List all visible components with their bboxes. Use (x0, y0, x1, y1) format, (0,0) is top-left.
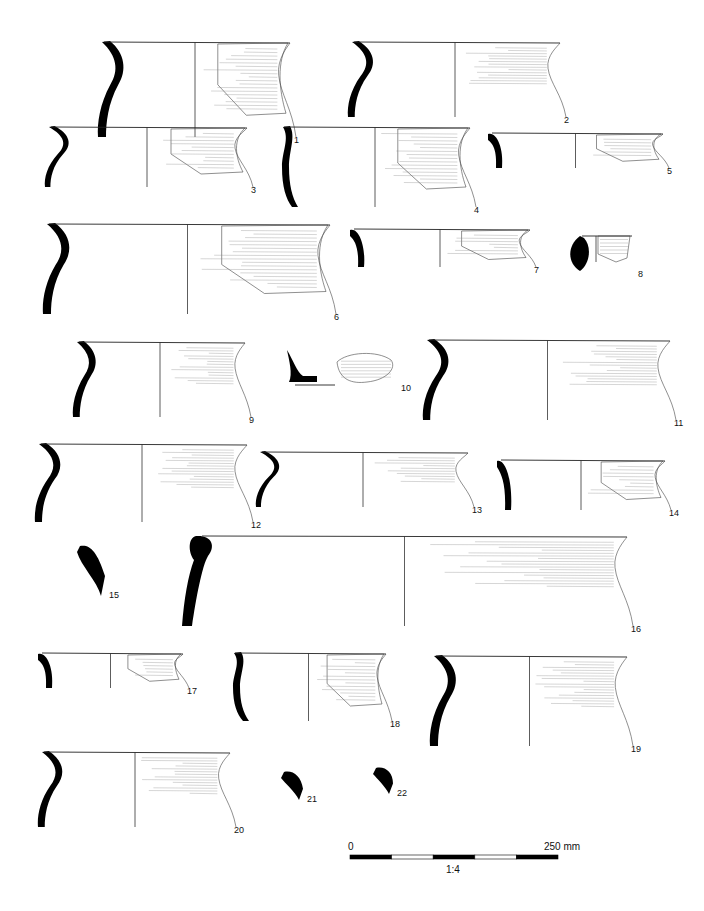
vessel-17: 17 (38, 653, 197, 696)
exterior-outline (235, 445, 253, 522)
vessel-1: 1 (98, 41, 299, 145)
section-profile (256, 451, 279, 507)
vessel-4: 4 (282, 126, 479, 215)
exterior-outline (456, 453, 474, 507)
section-profile (348, 41, 373, 117)
scale-start-label: 0 (348, 841, 354, 852)
vessel-number: 4 (474, 205, 479, 215)
vessel-22: 22 (373, 768, 407, 798)
section-profile (233, 652, 249, 721)
section-profile (38, 654, 52, 688)
rim-line (104, 42, 290, 43)
vessel-number: 6 (334, 312, 339, 322)
fragment-outline (598, 236, 630, 262)
rim-line (202, 536, 627, 537)
vessel-number: 2 (564, 115, 569, 125)
vessel-9: 9 (73, 341, 254, 425)
rim-line (235, 653, 386, 654)
vessel-number: 14 (669, 508, 679, 518)
vessel-21: 21 (281, 772, 317, 804)
vessel-18: 18 (233, 652, 400, 729)
exterior-outline (218, 753, 236, 827)
vessel-number: 9 (249, 415, 254, 425)
fragment-outline (218, 43, 288, 115)
section-profile (287, 350, 317, 382)
vessel-number: 3 (251, 185, 256, 195)
rim-line (79, 342, 245, 343)
vessel-number: 15 (109, 590, 119, 600)
vessel-2: 2 (348, 41, 569, 125)
vessel-number: 22 (397, 788, 407, 798)
fragment-outline (462, 230, 528, 260)
section-profile (373, 768, 393, 794)
vessel-number: 7 (534, 265, 539, 275)
section-profile (98, 41, 124, 137)
vessel-number: 20 (234, 825, 244, 835)
exterior-outline (548, 43, 566, 117)
vessel-number: 18 (390, 719, 400, 729)
vessel-14: 14 (497, 460, 679, 518)
rim-line (41, 444, 247, 445)
vessel-number: 10 (401, 383, 411, 393)
vessel-20: 20 (38, 751, 244, 835)
vessel-number: 17 (187, 686, 197, 696)
scale-bar: 0250 mm1:4 (348, 841, 580, 875)
section-profile (38, 751, 62, 827)
vessel-number: 8 (638, 269, 643, 279)
section-profile (423, 339, 449, 420)
fragment-outline (337, 353, 393, 382)
section-profile (350, 230, 364, 267)
section-profile (430, 655, 456, 746)
scale-end-label: 250 mm (544, 841, 580, 852)
vessel-3: 3 (45, 126, 256, 195)
rim-line (51, 127, 247, 128)
section-profile (281, 772, 303, 800)
section-profile (488, 134, 502, 168)
scale-segment (475, 855, 517, 859)
fragment-outline (601, 461, 663, 500)
vessel-13: 13 (256, 451, 482, 515)
vessel-16: 16 (182, 536, 641, 634)
rim-line (262, 452, 468, 453)
scale-segment (516, 855, 558, 859)
vessel-number: 21 (307, 794, 317, 804)
vessel-11: 11 (423, 339, 684, 428)
vessel-number: 1 (294, 135, 299, 145)
rim-line (429, 340, 670, 341)
rim-line (436, 656, 627, 657)
vessel-12: 12 (35, 443, 261, 530)
exterior-outline (655, 461, 671, 510)
section-profile (43, 223, 69, 314)
rim-line (42, 653, 183, 654)
fragment-outline (171, 128, 245, 174)
fragment-outline (128, 654, 181, 681)
vessel-number: 12 (251, 520, 261, 530)
vessel-19: 19 (430, 655, 641, 754)
fragment-outline (597, 134, 662, 161)
vessel-5: 5 (488, 133, 672, 176)
section-profile (570, 236, 589, 271)
scale-segment (433, 855, 475, 859)
pottery-plate: 123456789101112131415161718192021220250 … (0, 0, 704, 911)
vessel-10: 10 (287, 350, 411, 393)
rim-line (44, 752, 230, 753)
rim-line (284, 127, 470, 128)
vessel-number: 5 (667, 166, 672, 176)
exterior-outline (658, 341, 676, 420)
rim-line (49, 224, 330, 225)
rim-line (501, 460, 665, 461)
scale-segment (350, 855, 392, 859)
rim-line (354, 229, 530, 230)
vessel-8: 8 (570, 236, 643, 279)
vessel-number: 19 (631, 744, 641, 754)
vessel-number: 13 (472, 505, 482, 515)
exterior-outline (615, 657, 633, 746)
vessel-number: 11 (674, 418, 683, 428)
section-profile (77, 546, 105, 596)
rim-line (492, 133, 663, 134)
vessel-15: 15 (77, 546, 119, 600)
vessel-6: 6 (43, 223, 339, 322)
scale-segment (392, 855, 434, 859)
section-profile (35, 443, 60, 522)
scale-ratio-label: 1:4 (446, 864, 460, 875)
